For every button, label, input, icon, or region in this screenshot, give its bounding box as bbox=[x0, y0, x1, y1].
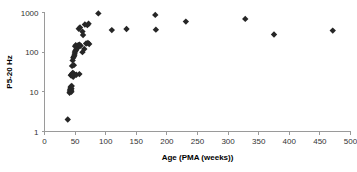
x-axis-title: Age (PMA (weeks)) bbox=[162, 153, 234, 162]
data-point bbox=[65, 116, 71, 122]
x-tick-label: 150 bbox=[130, 137, 144, 146]
data-point bbox=[330, 27, 336, 33]
data-point bbox=[183, 18, 189, 24]
y-axis-title: P5-20 Hz bbox=[5, 55, 14, 88]
plot-axes bbox=[45, 13, 351, 132]
y-tick-label: 1 bbox=[34, 128, 39, 137]
y-tick-label: 10 bbox=[30, 88, 39, 97]
data-point bbox=[95, 10, 101, 16]
y-tick-label: 100 bbox=[25, 48, 39, 57]
y-tick-label: 1000 bbox=[21, 9, 39, 18]
x-tick-label: 350 bbox=[252, 137, 266, 146]
x-tick-label: 400 bbox=[283, 137, 297, 146]
x-tick-label: 300 bbox=[221, 137, 235, 146]
x-axis-ticks: 050100150200250300350400450500 bbox=[42, 132, 357, 146]
data-point-group bbox=[65, 10, 336, 123]
data-point bbox=[123, 26, 129, 32]
data-point bbox=[109, 27, 115, 33]
chart-figure: 1101001000 05010015020025030035040045050… bbox=[0, 0, 357, 172]
x-tick-label: 200 bbox=[160, 137, 174, 146]
x-tick-label: 250 bbox=[191, 137, 205, 146]
data-point bbox=[242, 16, 248, 22]
x-tick-label: 500 bbox=[344, 137, 357, 146]
data-point bbox=[271, 31, 277, 37]
data-point bbox=[152, 12, 158, 18]
x-tick-label: 0 bbox=[42, 137, 47, 146]
scatter-plot: 1101001000 05010015020025030035040045050… bbox=[0, 0, 357, 172]
y-axis-ticks: 1101001000 bbox=[21, 9, 45, 137]
data-point bbox=[153, 26, 159, 32]
x-tick-label: 50 bbox=[71, 137, 80, 146]
x-tick-label: 450 bbox=[313, 137, 327, 146]
x-tick-label: 100 bbox=[99, 137, 113, 146]
